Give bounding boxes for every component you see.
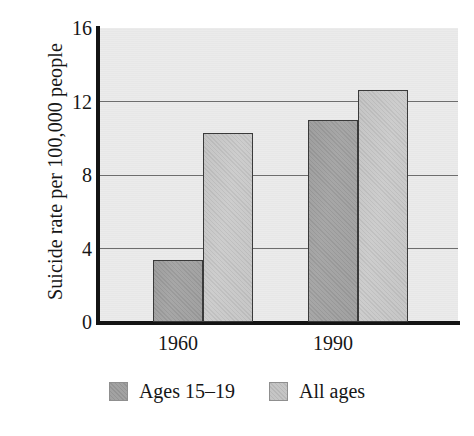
bar-1960-all-ages [203, 133, 253, 322]
legend-entry-ages-15-19: Ages 15–19 [109, 380, 235, 403]
legend-label-ages-15-19: Ages 15–19 [139, 380, 235, 403]
plot-area [100, 28, 458, 322]
bar-1990-all-ages [358, 90, 408, 322]
y-axis-tick-labels: 16 12 8 4 0 [48, 0, 92, 436]
legend-entry-all-ages: All ages [269, 380, 365, 403]
y-tick-label-8: 8 [54, 165, 92, 185]
x-tick-label-1960: 1960 [118, 332, 238, 355]
bar-chart-figure: Suicide rate per 100,000 people 16 12 8 … [0, 0, 474, 436]
y-tick-label-4: 4 [54, 239, 92, 259]
y-tick-label-12: 12 [54, 92, 92, 112]
y-tick-label-16: 16 [54, 18, 92, 38]
bar-1960-ages-15-19 [153, 260, 203, 322]
legend-swatch-icon-all-ages [269, 382, 288, 401]
legend-label-all-ages: All ages [299, 380, 365, 403]
y-tick-label-0: 0 [54, 312, 92, 332]
x-tick-label-1990: 1990 [273, 332, 393, 355]
chart-legend: Ages 15–19 All ages [0, 380, 474, 403]
legend-swatch-icon-ages-15-19 [109, 382, 128, 401]
bar-1990-ages-15-19 [308, 120, 358, 322]
